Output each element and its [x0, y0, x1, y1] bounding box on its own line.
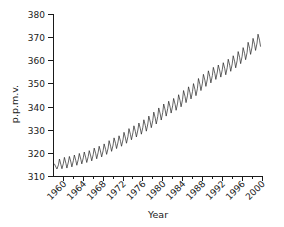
y-tick-label-310: 310 — [28, 172, 45, 182]
y-tick-labels: 380 370 360 350 340 330 320 310 — [28, 10, 45, 182]
x-tick-label-1996: 1996 — [224, 179, 247, 202]
x-tick-label-1976: 1976 — [125, 179, 148, 202]
y-axis-title: p.p.m.v. — [9, 85, 20, 123]
y-tick-label-380: 380 — [28, 10, 45, 20]
x-tick-label-2000: 2000 — [244, 179, 267, 202]
x-tick-label-1988: 1988 — [184, 179, 207, 202]
x-tick-label-1960: 1960 — [45, 179, 68, 202]
x-axis-title: Year — [147, 209, 168, 220]
x-tick-label-1984: 1984 — [164, 179, 187, 202]
x-tick-label-1980: 1980 — [144, 179, 167, 202]
x-tick-label-1992: 1992 — [204, 179, 227, 202]
y-tick-label-320: 320 — [28, 149, 45, 159]
x-tick-labels: 1960196419681972197619801984198819921996… — [45, 179, 267, 202]
y-tick-label-340: 340 — [28, 103, 45, 113]
x-tick-label-1968: 1968 — [85, 179, 108, 202]
x-tick-label-1972: 1972 — [105, 179, 128, 202]
co2-data-line — [54, 34, 260, 169]
y-tick-label-330: 330 — [28, 126, 45, 136]
chart-svg: 380 370 360 350 340 330 320 310 19601964… — [0, 0, 284, 227]
co2-keeling-curve-figure: 380 370 360 350 340 330 320 310 19601964… — [0, 0, 284, 227]
y-tick-label-360: 360 — [28, 56, 45, 66]
y-tick-label-370: 370 — [28, 33, 45, 43]
x-ticks — [63, 176, 262, 181]
y-tick-label-350: 350 — [28, 79, 45, 89]
y-ticks — [48, 15, 54, 177]
x-tick-label-1964: 1964 — [65, 179, 88, 202]
